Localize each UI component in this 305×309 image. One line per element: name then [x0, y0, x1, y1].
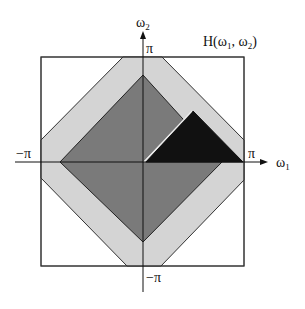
- frequency-response-diagram: ω2 π −π −π π ω1 H(ω1, ω2): [0, 0, 305, 309]
- function-title: H(ω1, ω2): [203, 34, 257, 51]
- vertical-pos-pi-label: π: [146, 41, 153, 56]
- horizontal-neg-pi-label: −π: [16, 146, 31, 161]
- omega1-arrow-icon: [260, 159, 268, 165]
- omega2-label: ω2: [136, 15, 150, 32]
- vertical-neg-pi-label: −π: [146, 270, 161, 285]
- horizontal-pos-pi-label: π: [248, 146, 255, 161]
- omega1-label: ω1: [276, 155, 290, 172]
- omega2-arrow-icon: [140, 31, 146, 39]
